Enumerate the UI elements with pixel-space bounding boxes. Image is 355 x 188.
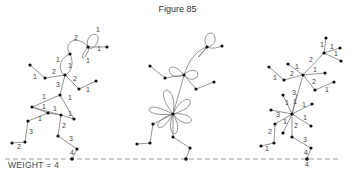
svg-text:3: 3 bbox=[29, 128, 33, 135]
svg-text:1: 1 bbox=[313, 66, 317, 73]
svg-text:1: 1 bbox=[285, 99, 289, 106]
svg-text:2: 2 bbox=[62, 122, 66, 129]
svg-text:1: 1 bbox=[86, 86, 90, 93]
svg-text:1: 1 bbox=[330, 43, 334, 50]
svg-text:1: 1 bbox=[334, 50, 338, 57]
svg-text:1: 1 bbox=[56, 56, 60, 63]
svg-text:1: 1 bbox=[320, 41, 324, 48]
svg-text:1: 1 bbox=[96, 26, 100, 33]
svg-text:2: 2 bbox=[294, 122, 298, 129]
svg-text:1: 1 bbox=[86, 57, 90, 64]
svg-text:1: 1 bbox=[42, 103, 46, 110]
svg-text:1: 1 bbox=[53, 105, 57, 112]
svg-text:3: 3 bbox=[56, 81, 60, 88]
svg-text:4: 4 bbox=[304, 149, 308, 156]
svg-text:1: 1 bbox=[283, 118, 287, 125]
svg-text:1: 1 bbox=[97, 45, 101, 52]
svg-text:1: 1 bbox=[68, 94, 72, 101]
middle-loop-tree bbox=[135, 33, 223, 161]
svg-text:2: 2 bbox=[268, 128, 272, 135]
svg-text:2: 2 bbox=[312, 78, 316, 85]
right-weighted-tree: 1 1 1 2 1 1 2 1 2 1 3 1 1 1 3 1 2 1 2 3 … bbox=[259, 36, 342, 168]
svg-text:3: 3 bbox=[303, 136, 307, 143]
svg-text:1: 1 bbox=[68, 62, 72, 69]
svg-text:3: 3 bbox=[276, 111, 280, 118]
svg-text:3: 3 bbox=[292, 89, 296, 96]
svg-text:2: 2 bbox=[73, 75, 77, 82]
svg-text:2: 2 bbox=[309, 56, 313, 63]
svg-text:1: 1 bbox=[302, 101, 306, 108]
svg-text:2: 2 bbox=[17, 143, 21, 150]
svg-text:1: 1 bbox=[293, 98, 297, 105]
svg-text:4: 4 bbox=[70, 149, 74, 156]
svg-text:2: 2 bbox=[74, 34, 78, 41]
weight-label: WEIGHT = 4 bbox=[8, 160, 59, 170]
svg-text:3: 3 bbox=[69, 135, 73, 142]
left-weighted-tree: 1 2 1 1 1 1 2 1 2 1 3 1 1 1 1 1 1 3 2 2 … bbox=[10, 26, 108, 161]
svg-text:1: 1 bbox=[295, 63, 299, 70]
svg-text:1: 1 bbox=[325, 86, 329, 93]
svg-text:1: 1 bbox=[68, 110, 72, 117]
svg-text:1: 1 bbox=[265, 145, 269, 152]
bottom-weight-label: 4 bbox=[305, 161, 309, 168]
svg-text:1: 1 bbox=[303, 114, 307, 121]
svg-text:1: 1 bbox=[273, 74, 277, 81]
svg-text:1: 1 bbox=[33, 73, 37, 80]
svg-text:1: 1 bbox=[42, 93, 46, 100]
svg-text:2: 2 bbox=[290, 70, 294, 77]
svg-text:1: 1 bbox=[38, 115, 42, 122]
svg-text:2: 2 bbox=[52, 68, 56, 75]
